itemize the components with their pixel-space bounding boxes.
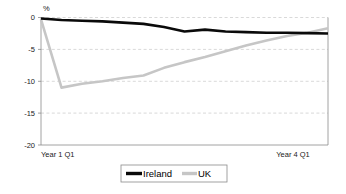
y-tick-label-0: 0 bbox=[31, 13, 35, 22]
legend-label-ireland: Ireland bbox=[143, 168, 172, 179]
series-line-ireland bbox=[41, 18, 328, 33]
x-tick-label-first: Year 1 Q1 bbox=[41, 150, 75, 159]
series-group bbox=[41, 18, 328, 87]
x-tick-label-last: Year 4 Q1 bbox=[276, 150, 310, 159]
y-tick-label-minus5: -5 bbox=[28, 45, 35, 54]
legend: Ireland UK bbox=[121, 165, 227, 182]
y-tick-label-minus15: -15 bbox=[24, 109, 35, 118]
legend-label-uk: UK bbox=[198, 168, 212, 179]
y-tick-label-minus10: -10 bbox=[24, 77, 35, 86]
line-chart: 0 -5 -10 -15 -20 % Year 1 Q1 Year 4 Q1 I… bbox=[0, 0, 346, 194]
series-line-uk bbox=[41, 19, 328, 87]
chart-container: 0 -5 -10 -15 -20 % Year 1 Q1 Year 4 Q1 I… bbox=[0, 0, 346, 194]
y-tick-marks bbox=[38, 18, 41, 146]
y-tick-label-minus20: -20 bbox=[24, 141, 35, 150]
y-axis-unit-label: % bbox=[43, 4, 50, 13]
